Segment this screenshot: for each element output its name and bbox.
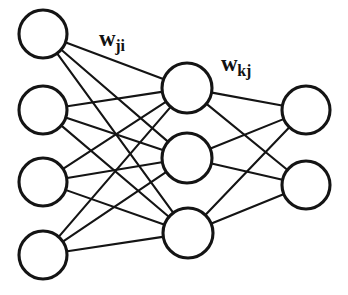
weight-label-wkj: wkj bbox=[221, 52, 251, 79]
connection-edge bbox=[62, 171, 167, 242]
weight-label-wji: wji bbox=[99, 27, 125, 54]
connection-edge bbox=[205, 127, 290, 216]
node-group-input-layer bbox=[19, 10, 67, 279]
weight-label-wji-base: w bbox=[99, 26, 115, 51]
neuron-node-k2 bbox=[282, 161, 330, 209]
weight-label-wji-subscript: ji bbox=[115, 37, 124, 54]
node-group-output-layer bbox=[282, 86, 330, 209]
connection-edge bbox=[66, 162, 164, 178]
neuron-node-i2 bbox=[19, 86, 67, 134]
neuron-node-k1 bbox=[282, 86, 330, 134]
neuron-node-j3 bbox=[163, 208, 213, 258]
weight-label-wkj-subscript: kj bbox=[237, 62, 251, 79]
neuron-node-j1 bbox=[162, 63, 212, 113]
network-canvas bbox=[0, 0, 348, 295]
neuron-node-j2 bbox=[162, 133, 212, 183]
connection-edge bbox=[65, 117, 164, 150]
connection-edge bbox=[62, 101, 167, 169]
connection-edge bbox=[66, 92, 164, 107]
neuron-node-i4 bbox=[19, 231, 67, 279]
edge-group-hidden-to-output bbox=[205, 92, 290, 224]
edge-group-input-to-hidden bbox=[57, 42, 174, 251]
neuron-node-i1 bbox=[19, 10, 67, 58]
neural-network-diagram: wji wkj bbox=[0, 0, 348, 295]
node-group-hidden-layer bbox=[162, 63, 213, 258]
connection-edge bbox=[211, 92, 284, 105]
connection-edge bbox=[66, 237, 165, 252]
connection-edge bbox=[58, 106, 171, 237]
connection-edge bbox=[206, 103, 289, 170]
neuron-node-i3 bbox=[19, 158, 67, 206]
weight-label-wkj-base: w bbox=[221, 51, 237, 76]
